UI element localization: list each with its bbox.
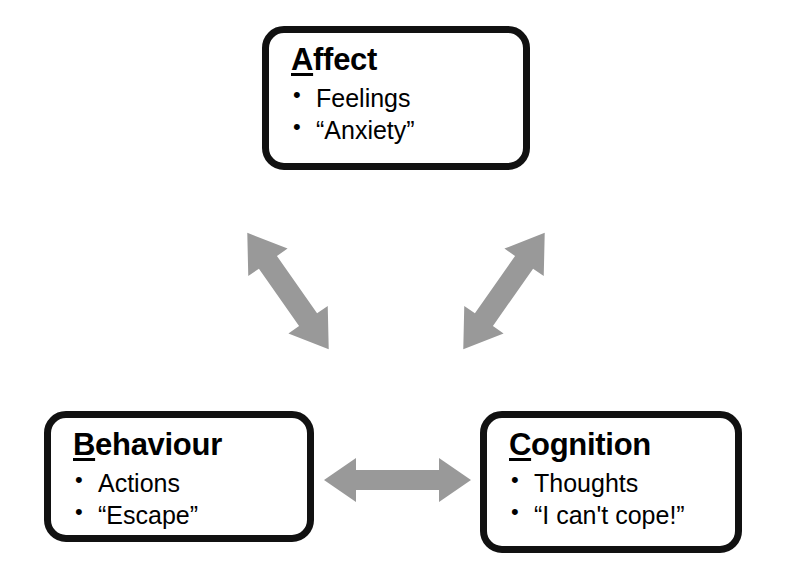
node-cognition-title: Cognition <box>509 428 719 461</box>
node-behaviour-title-initial: B <box>73 427 95 462</box>
node-behaviour-title: Behaviour <box>73 428 291 461</box>
node-behaviour-title-rest: ehaviour <box>95 427 222 462</box>
node-cognition-title-initial: C <box>509 427 531 462</box>
double-arrow-icon-behaviour-cognition <box>320 452 475 508</box>
node-affect-title-rest: ffect <box>313 42 377 77</box>
node-affect[interactable]: Affect Feelings “Anxiety” <box>262 26 530 170</box>
node-affect-title-initial: A <box>291 42 313 77</box>
node-cognition-bullets: Thoughts “I can't cope!” <box>509 467 719 531</box>
node-behaviour[interactable]: Behaviour Actions “Escape” <box>44 411 314 542</box>
list-item: “Anxiety” <box>291 114 507 146</box>
node-cognition-title-rest: ognition <box>531 427 651 462</box>
list-item: Feelings <box>291 82 507 114</box>
list-item: Thoughts <box>509 467 719 499</box>
list-item: Actions <box>73 467 291 499</box>
node-affect-title: Affect <box>291 43 507 76</box>
node-behaviour-bullets: Actions “Escape” <box>73 467 291 531</box>
node-cognition[interactable]: Cognition Thoughts “I can't cope!” <box>480 411 742 553</box>
list-item: “Escape” <box>73 499 291 531</box>
double-arrow-icon-affect-behaviour <box>228 216 348 366</box>
double-arrow-icon-affect-cognition <box>444 216 564 366</box>
diagram-canvas: Affect Feelings “Anxiety” Behaviour Acti… <box>0 0 790 579</box>
node-affect-bullets: Feelings “Anxiety” <box>291 82 507 146</box>
list-item: “I can't cope!” <box>509 499 719 531</box>
